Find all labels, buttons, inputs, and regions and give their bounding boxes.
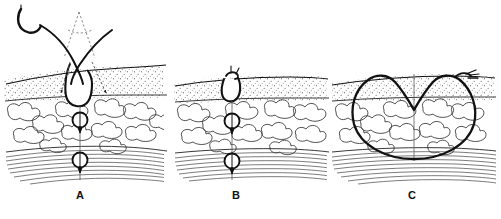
panel-a-label: A bbox=[68, 189, 92, 201]
figure-canvas bbox=[0, 0, 501, 219]
panel-b-closed-wound bbox=[222, 78, 240, 101]
panel-c-label: C bbox=[400, 189, 424, 201]
panel-b-label: B bbox=[224, 189, 248, 201]
figure-background bbox=[0, 0, 501, 219]
